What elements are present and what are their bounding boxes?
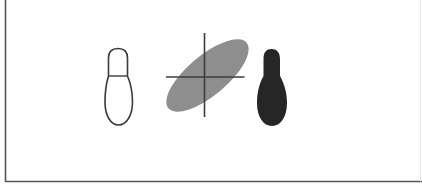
figure-frame xyxy=(0,0,422,188)
figure-canvas xyxy=(0,0,422,188)
filled-dark-pin-shape xyxy=(257,49,287,126)
pin-outline-path xyxy=(105,49,133,126)
tilted-ellipse-group xyxy=(156,27,260,123)
outline-pin-shape xyxy=(105,49,133,126)
tilted-gray-ellipse xyxy=(156,27,260,123)
